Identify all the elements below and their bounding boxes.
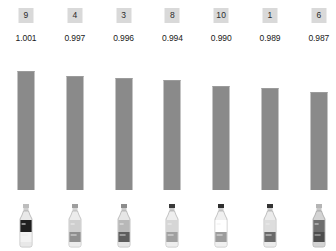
score-bar (213, 86, 230, 190)
chart-column: 60.987 (295, 0, 336, 251)
ranked-bar-chart: 91.00140.99730.99680.994100.99010.98960.… (0, 0, 336, 251)
bottle-thumbnail-3[interactable] (102, 201, 146, 249)
score-value: 1.001 (2, 33, 50, 43)
rank-badge: 1 (263, 8, 278, 23)
bottle-icon (309, 203, 329, 249)
bottle-icon (65, 203, 85, 249)
score-bar (164, 80, 181, 190)
bottle-thumbnail-1[interactable] (4, 201, 48, 249)
chart-column: 40.997 (51, 0, 99, 251)
score-bar (115, 78, 132, 190)
bottle-thumbnail-5[interactable] (199, 201, 243, 249)
bottle-thumbnail-7[interactable] (297, 201, 336, 249)
rank-badge: 4 (67, 8, 82, 23)
score-bar (262, 88, 279, 190)
chart-column: 10.989 (246, 0, 294, 251)
chart-column: 91.001 (2, 0, 50, 251)
chart-column: 100.990 (197, 0, 245, 251)
score-value: 0.989 (246, 33, 294, 43)
score-value: 0.994 (148, 33, 196, 43)
score-value: 0.997 (51, 33, 99, 43)
bottle-icon (16, 203, 36, 249)
bar-slot (18, 71, 35, 190)
bar-slot (164, 80, 181, 190)
bottle-thumbnail-4[interactable] (150, 201, 194, 249)
bar-slot (66, 76, 83, 190)
bottle-icon (211, 203, 231, 249)
rank-badge: 10 (214, 8, 229, 23)
bottle-thumbnail-2[interactable] (53, 201, 97, 249)
rank-badge: 9 (19, 8, 34, 23)
rank-badge: 3 (116, 8, 131, 23)
score-value: 0.987 (295, 33, 336, 43)
bottle-thumbnail-6[interactable] (248, 201, 292, 249)
chart-column: 30.996 (100, 0, 148, 251)
score-value: 0.990 (197, 33, 245, 43)
bar-slot (115, 78, 132, 190)
rank-badge: 8 (165, 8, 180, 23)
score-bar (18, 71, 35, 190)
bar-slot (262, 88, 279, 190)
bottle-icon (162, 203, 182, 249)
bottle-icon (114, 203, 134, 249)
chart-column: 80.994 (148, 0, 196, 251)
rank-badge: 6 (311, 8, 326, 23)
bar-slot (213, 86, 230, 190)
score-bar (66, 76, 83, 190)
score-bar (310, 92, 327, 190)
score-value: 0.996 (100, 33, 148, 43)
bottle-icon (260, 203, 280, 249)
bar-slot (310, 92, 327, 190)
